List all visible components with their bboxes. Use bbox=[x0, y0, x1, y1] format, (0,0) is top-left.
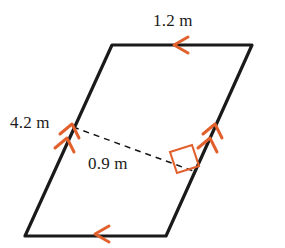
height-length-label: 0.9 m bbox=[88, 155, 128, 172]
right-edge-double-arrow-icon bbox=[198, 124, 222, 152]
geometry-diagram: 1.2 m 4.2 m 0.9 m bbox=[0, 0, 285, 248]
bottom-edge-arrow-icon bbox=[95, 226, 109, 242]
top-side-length-label: 1.2 m bbox=[153, 12, 193, 29]
parallelogram-outline bbox=[25, 45, 252, 236]
left-edge-double-arrow-icon bbox=[55, 124, 79, 152]
left-side-length-label: 4.2 m bbox=[10, 114, 50, 131]
